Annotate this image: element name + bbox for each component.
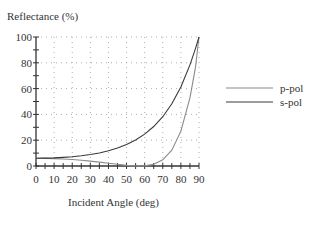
legend-label-p-pol: p-pol [280, 82, 303, 94]
x-tick-label: 0 [33, 173, 39, 185]
grid [36, 37, 199, 166]
x-tick-label: 60 [139, 173, 151, 185]
y-axis-title: Reflectance (%) [7, 10, 78, 23]
y-tick-label: 20 [21, 134, 33, 146]
x-tick-label: 30 [85, 173, 97, 185]
series-line-p-pol [36, 37, 199, 166]
y-tick-label: 0 [27, 160, 33, 172]
axes [33, 37, 199, 169]
x-tick-label: 70 [157, 173, 169, 185]
legend-label-s-pol: s-pol [280, 96, 302, 108]
legend: p-pols-pol [226, 82, 303, 108]
x-tick-label: 80 [175, 173, 187, 185]
x-tick-labels: 0102030405060708090 [33, 173, 205, 185]
y-tick-labels: 020406080100 [16, 31, 33, 172]
x-tick-label: 40 [103, 173, 115, 185]
y-tick-label: 40 [21, 108, 33, 120]
x-axis-title: Incident Angle (deg) [68, 196, 159, 209]
x-tick-label: 10 [49, 173, 61, 185]
y-tick-label: 60 [21, 83, 33, 95]
y-tick-label: 100 [16, 31, 33, 43]
x-tick-label: 20 [67, 173, 79, 185]
series-lines [36, 37, 199, 166]
y-tick-label: 80 [21, 57, 33, 69]
x-tick-label: 90 [194, 173, 206, 185]
x-tick-label: 50 [121, 173, 133, 185]
series-line-s-pol [36, 37, 199, 158]
reflectance-chart: Reflectance (%) 0102030405060708090 0204… [0, 0, 318, 226]
